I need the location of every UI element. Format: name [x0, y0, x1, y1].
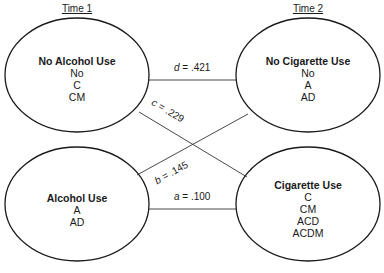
node-item: CM [7, 91, 147, 103]
node-alcohol-use: Alcohol Use A AD [7, 192, 147, 228]
node-item: No [7, 67, 147, 79]
edge-value: .100 [191, 191, 210, 202]
edge-value: .421 [191, 62, 210, 73]
node-item: AD [238, 91, 378, 103]
node-item: C [7, 79, 147, 91]
node-item: A [238, 79, 378, 91]
node-no-cigarette-use: No Cigarette Use No A AD [238, 55, 378, 103]
node-item: No [238, 67, 378, 79]
node-item: C [238, 191, 378, 203]
node-item: ACDM [238, 227, 378, 239]
edge-b-line [137, 114, 248, 175]
time1-header: Time 1 [37, 3, 117, 14]
node-item: CM [238, 203, 378, 215]
edge-a-label: a = .100 [174, 191, 210, 202]
time2-header: Time 2 [268, 3, 348, 14]
edge-var: a [174, 191, 180, 202]
edge-var: d [174, 62, 180, 73]
node-title: No Cigarette Use [238, 55, 378, 67]
node-title: No Alcohol Use [7, 55, 147, 67]
node-title: Alcohol Use [7, 192, 147, 204]
node-cigarette-use: Cigarette Use C CM ACD ACDM [238, 179, 378, 239]
node-item: ACD [238, 215, 378, 227]
node-no-alcohol-use: No Alcohol Use No C CM [7, 55, 147, 103]
node-item: AD [7, 216, 147, 228]
node-item: A [7, 204, 147, 216]
edge-d-label: d = .421 [174, 62, 210, 73]
node-title: Cigarette Use [238, 179, 378, 191]
